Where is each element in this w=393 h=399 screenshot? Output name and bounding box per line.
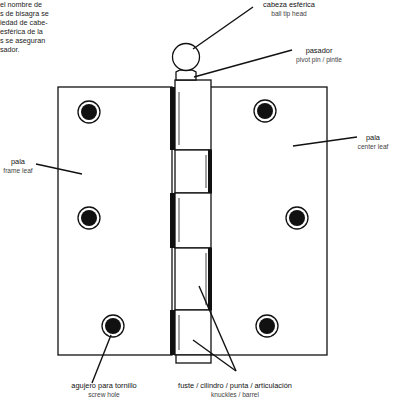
screw-hole-right-middle <box>286 207 308 229</box>
screw-hole-right-top <box>254 100 276 122</box>
label-knuckles-es: fuste / cilindro / punta / articulación <box>170 381 300 390</box>
knuckle-1 <box>175 80 211 150</box>
label-pivot-pin-es: pasador <box>284 46 354 55</box>
label-frame-leaf: pala frame leaf <box>0 157 36 175</box>
label-knuckles: fuste / cilindro / punta / articulación … <box>170 381 300 399</box>
label-ball-tip: cabeza esférica ball tip head <box>244 0 334 18</box>
screw-hole-left-bottom <box>102 315 124 337</box>
label-frame-leaf-es: pala <box>0 157 36 166</box>
label-screw-hole-es: agujero para tornillo <box>54 381 154 390</box>
label-screw-hole-en: screw hole <box>54 390 154 399</box>
screw-hole-left-top <box>78 101 100 123</box>
label-center-leaf-es: pala <box>351 133 393 142</box>
label-pivot-pin: pasador pivot pin / pintle <box>284 46 354 64</box>
label-pivot-pin-en: pivot pin / pintle <box>284 55 354 64</box>
label-ball-tip-en: ball tip head <box>244 9 334 18</box>
label-center-leaf-en: center leaf <box>351 142 393 151</box>
label-frame-leaf-en: frame leaf <box>0 166 36 175</box>
screw-hole-left-middle <box>78 207 100 229</box>
knuckle-3 <box>175 193 211 248</box>
label-screw-hole: agujero para tornillo screw hole <box>54 381 154 399</box>
label-center-leaf: pala center leaf <box>351 133 393 151</box>
ball-tip-base <box>176 70 196 80</box>
label-knuckles-en: knuckles / barrel <box>170 390 300 399</box>
label-ball-tip-es: cabeza esférica <box>244 0 334 9</box>
screw-hole-right-bottom <box>256 315 278 337</box>
barrel-tip <box>176 355 211 363</box>
leader-pivot-pin <box>194 50 292 77</box>
